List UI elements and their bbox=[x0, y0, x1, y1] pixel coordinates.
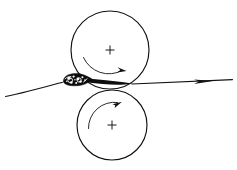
web-entry-line bbox=[6, 82, 63, 96]
two-roll-nip-diagram bbox=[0, 0, 237, 170]
web-exit-line bbox=[132, 79, 233, 84]
figure-canvas bbox=[0, 0, 237, 170]
lower-roller bbox=[77, 90, 147, 160]
